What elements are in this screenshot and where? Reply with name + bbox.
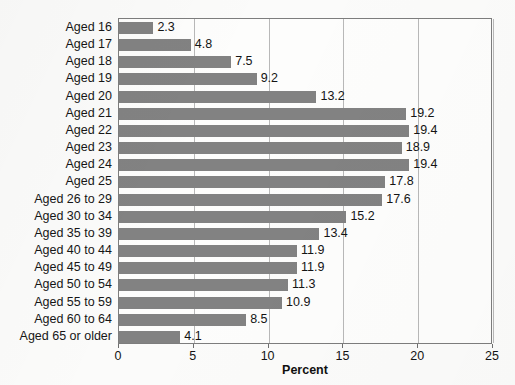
bar-row: 17.6 (119, 191, 491, 209)
bar-value-label: 19.4 (413, 155, 437, 173)
bar-value-label: 11.9 (301, 258, 324, 276)
bar (119, 228, 319, 240)
category-label: Aged 35 to 39 (0, 224, 112, 242)
category-label: Aged 23 (0, 138, 112, 156)
bar-value-label: 13.2 (320, 87, 344, 105)
bar (119, 39, 191, 51)
category-label: Aged 40 to 44 (0, 241, 112, 259)
bar-value-label: 19.2 (410, 104, 434, 122)
category-label: Aged 60 to 64 (0, 310, 112, 328)
category-label: Aged 24 (0, 155, 112, 173)
bar (119, 211, 346, 223)
tick-label-0: 0 (115, 349, 122, 363)
bar-chart: 2.34.87.59.213.219.219.418.919.417.817.6… (0, 0, 515, 385)
category-label: Aged 22 (0, 121, 112, 139)
bar-value-label: 7.5 (235, 52, 252, 70)
bar-value-label: 11.9 (301, 241, 324, 259)
bar-rows: 2.34.87.59.213.219.219.418.919.417.817.6… (119, 19, 491, 343)
tick-mark-5 (193, 344, 194, 348)
category-label: Aged 17 (0, 35, 112, 53)
bar-value-label: 17.8 (389, 172, 413, 190)
bar (119, 314, 246, 326)
bar-row: 13.2 (119, 88, 491, 106)
tick-label-25: 25 (485, 349, 499, 363)
bar-value-label: 18.9 (406, 138, 430, 156)
category-label: Aged 21 (0, 104, 112, 122)
bar-value-label: 17.6 (386, 190, 410, 208)
tick-mark-15 (342, 344, 343, 348)
tick-mark-10 (268, 344, 269, 348)
bar-row: 8.5 (119, 311, 491, 329)
tick-mark-0 (118, 344, 119, 348)
bar-row: 4.8 (119, 36, 491, 54)
category-label: Aged 55 to 59 (0, 293, 112, 311)
tick-mark-20 (417, 344, 418, 348)
bar-row: 19.4 (119, 122, 491, 140)
category-label: Aged 20 (0, 87, 112, 105)
x-axis-ticks: 0510152025 (118, 344, 492, 364)
category-label: Aged 65 or older (0, 327, 112, 345)
bar-row: 10.9 (119, 294, 491, 312)
bar-value-label: 8.5 (250, 310, 267, 328)
category-label: Aged 45 to 49 (0, 258, 112, 276)
category-label: Aged 30 to 34 (0, 207, 112, 225)
bar (119, 56, 231, 68)
bar (119, 22, 153, 34)
category-label: Aged 18 (0, 52, 112, 70)
bar (119, 297, 282, 309)
bar-value-label: 11.3 (292, 275, 315, 293)
bar-value-label: 19.4 (413, 121, 437, 139)
gridline-25 (493, 19, 494, 343)
bar-row: 7.5 (119, 53, 491, 71)
bar-value-label: 4.1 (184, 327, 201, 345)
bar (119, 331, 180, 343)
bar (119, 159, 409, 171)
tick-label-5: 5 (189, 349, 196, 363)
category-label: Aged 16 (0, 18, 112, 36)
bar (119, 125, 409, 137)
bar-row: 15.2 (119, 208, 491, 226)
bar (119, 279, 288, 291)
bar-value-label: 2.3 (157, 18, 174, 36)
bar-row: 9.2 (119, 70, 491, 88)
tick-label-15: 15 (335, 349, 349, 363)
bar-value-label: 9.2 (261, 69, 278, 87)
bar (119, 91, 316, 103)
tick-mark-25 (492, 344, 493, 348)
x-axis-title: Percent (118, 363, 492, 377)
bar (119, 73, 257, 85)
tick-label-20: 20 (410, 349, 424, 363)
bar (119, 262, 297, 274)
category-label: Aged 50 to 54 (0, 275, 112, 293)
bar-value-label: 15.2 (350, 207, 374, 225)
category-label: Aged 25 (0, 172, 112, 190)
bar-value-label: 13.4 (323, 224, 347, 242)
bar-row: 17.8 (119, 173, 491, 191)
bar (119, 245, 297, 257)
bar-value-label: 10.9 (286, 293, 310, 311)
category-label: Aged 26 to 29 (0, 190, 112, 208)
tick-label-10: 10 (261, 349, 275, 363)
category-label: Aged 19 (0, 69, 112, 87)
category-axis-labels: Aged 16Aged 17Aged 18Aged 19Aged 20Aged … (0, 18, 112, 344)
bar-value-label: 4.8 (195, 35, 212, 53)
bar (119, 176, 385, 188)
plot-area: 2.34.87.59.213.219.219.418.919.417.817.6… (118, 18, 492, 344)
bar (119, 108, 406, 120)
bar (119, 194, 382, 206)
bar (119, 142, 402, 154)
bar-row: 19.4 (119, 156, 491, 174)
bar-row: 2.3 (119, 19, 491, 37)
